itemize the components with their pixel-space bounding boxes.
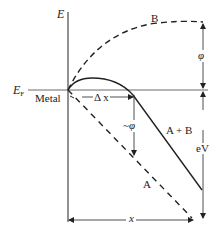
curve-b-label: B xyxy=(151,13,158,24)
distance-label: x xyxy=(128,213,135,224)
curve-a-plus-b-label: A + B xyxy=(166,125,192,136)
work-function-label: φ xyxy=(198,50,204,61)
applied-energy-label: eV xyxy=(196,143,209,154)
energy-diagram xyxy=(0,0,220,234)
delta-x-start-tick xyxy=(70,96,74,98)
curve-a xyxy=(68,90,192,218)
fermi-level-label: EF xyxy=(13,84,24,98)
curve-a-label: A xyxy=(143,179,151,190)
barrier-reduction-label: ~φ xyxy=(123,120,135,131)
delta-x-label: Δ x xyxy=(93,92,110,103)
metal-label: Metal xyxy=(35,93,61,104)
curve-b xyxy=(68,21,203,90)
energy-axis-label: E xyxy=(57,8,64,20)
